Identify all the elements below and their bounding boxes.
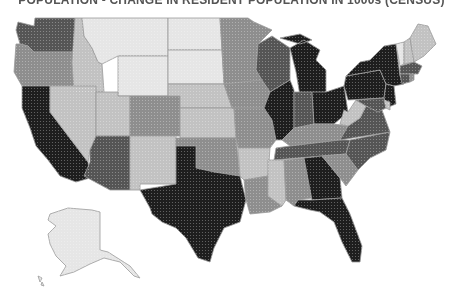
state-wy-halftone [118,56,168,96]
state-ia-halftone [224,80,270,108]
state-ri-halftone [410,74,414,82]
state-me-halftone [410,24,436,62]
us-choropleth-map [0,0,463,305]
state-ks-halftone [180,108,236,138]
state-ut-halftone [96,92,130,136]
state-co-halftone [130,96,180,136]
state-nm-halftone [130,136,176,190]
state-ar-halftone [238,148,270,180]
state-fl-halftone [294,198,362,262]
state-ak-halftone [48,208,140,278]
state-sd-halftone [168,50,224,84]
state-nd-halftone [168,18,222,50]
